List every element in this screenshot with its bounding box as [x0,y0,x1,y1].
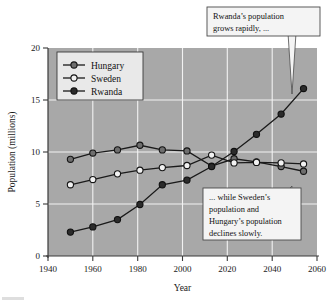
callout-sh-line-4: declines slowly. [209,229,262,238]
callout-sh-line-2: population and [209,205,260,214]
callout-sweden-hungary: ... while Sweden’s population and Hungar… [203,186,301,240]
data-point-rwanda[interactable] [253,131,259,137]
x-tick-label: 2020 [218,264,237,274]
legend-marker-hungary-icon [71,62,77,68]
data-point-sweden[interactable] [67,182,73,188]
data-point-hungary[interactable] [114,147,120,153]
data-point-sweden[interactable] [300,161,306,167]
data-point-rwanda[interactable] [67,229,73,235]
legend-label-sweden: Sweden [91,74,121,84]
data-point-sweden[interactable] [184,162,190,168]
data-point-sweden[interactable] [209,152,215,158]
data-point-rwanda[interactable] [231,148,237,154]
data-point-sweden[interactable] [278,160,284,166]
x-tick-label: 2000 [174,264,193,274]
callout-sh-line-1: ... while Sweden’s [209,193,270,202]
x-tick-label: 2060 [308,264,327,274]
data-point-hungary[interactable] [90,150,96,156]
callout-rwanda-line-2: grows rapidly, ... [213,24,269,33]
data-point-sweden[interactable] [114,171,120,177]
x-tick-label: 2040 [263,264,282,274]
legend-label-rwanda: Rwanda [91,87,123,97]
y-tick-label: 10 [31,147,41,157]
data-point-rwanda[interactable] [90,224,96,230]
data-point-rwanda[interactable] [159,182,165,188]
data-point-sweden[interactable] [90,176,96,182]
callout-sh-line-3: Hungary’s population [209,217,283,226]
data-point-sweden[interactable] [137,167,143,173]
x-axis-title: Year [174,283,192,293]
data-point-rwanda[interactable] [300,85,306,91]
data-point-sweden[interactable] [231,160,237,166]
y-tick-label: 0 [36,251,41,261]
callout-rwanda-line-1: Rwanda’s population [213,12,285,21]
data-point-hungary[interactable] [137,142,143,148]
data-point-rwanda[interactable] [114,217,120,223]
scan-artifact [2,297,24,300]
data-point-hungary[interactable] [67,156,73,162]
legend-marker-rwanda-icon [71,88,77,94]
y-tick-label: 15 [31,95,41,105]
y-axis-title: Population (millions) [7,111,18,192]
population-line-chart: 0 5 10 15 20 1940 1960 1980 2000 2020 20… [0,0,335,307]
x-tick-label: 1960 [84,264,103,274]
legend: Hungary Sweden Rwanda [57,52,143,100]
data-point-hungary[interactable] [159,147,165,153]
legend-label-hungary: Hungary [91,61,124,71]
x-tick-label: 1980 [129,264,148,274]
data-point-rwanda[interactable] [278,111,284,117]
x-tick-label: 1940 [39,264,58,274]
data-point-sweden[interactable] [159,165,165,171]
legend-marker-sweden-icon [71,75,77,81]
y-tick-label: 20 [31,43,41,53]
data-point-rwanda[interactable] [209,163,215,169]
data-point-hungary[interactable] [300,168,306,174]
data-point-hungary[interactable] [184,148,190,154]
data-point-rwanda[interactable] [184,177,190,183]
data-point-rwanda[interactable] [137,201,143,207]
data-point-sweden[interactable] [253,159,259,165]
y-tick-label: 5 [36,199,41,209]
